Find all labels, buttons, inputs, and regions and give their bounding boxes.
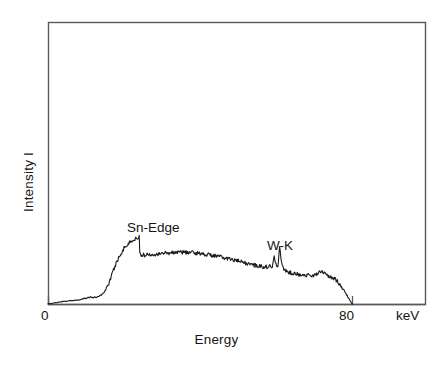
x-tick-label-0: 0	[41, 308, 49, 323]
spectrum-curve	[48, 235, 353, 304]
x-tick-label-80: 80	[339, 308, 354, 323]
x-axis-unit-label: keV	[396, 308, 419, 323]
y-axis-label: Intensity I	[21, 152, 36, 212]
annotation-w-k: W-K	[267, 238, 293, 253]
spectrum-plot	[0, 0, 445, 369]
plot-frame	[49, 23, 426, 305]
annotation-sn-edge: Sn-Edge	[127, 220, 180, 235]
x-axis-label: Energy	[0, 332, 439, 347]
xray-spectrum-figure: Intensity I Energy 0 80 keV Sn-Edge W-K	[0, 0, 445, 369]
